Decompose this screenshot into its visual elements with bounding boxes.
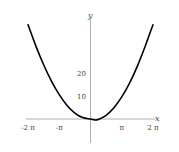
x-axis-label: x: [155, 114, 160, 123]
chart-plot: x y -2 π-ππ2 π 1020: [0, 0, 179, 152]
x-axis: x: [26, 114, 160, 123]
x-tick-label: -π: [56, 124, 63, 132]
y-axis: y: [87, 11, 93, 143]
y-tick-labels: 1020: [77, 70, 86, 101]
y-tick-label: 10: [77, 93, 86, 101]
x-tick-label: 2 π: [147, 124, 159, 132]
y-axis-label: y: [87, 11, 93, 20]
x-tick-label: -2 π: [21, 124, 35, 132]
x-tick-label: π: [119, 124, 124, 132]
y-tick-label: 20: [77, 70, 86, 78]
